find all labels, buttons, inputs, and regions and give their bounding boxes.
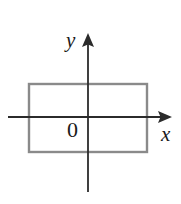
axes-and-rectangle-graphic — [0, 0, 181, 204]
x-axis-label: x — [161, 124, 170, 145]
y-axis-label: y — [66, 30, 75, 51]
origin-label: 0 — [67, 119, 78, 141]
coordinate-plane-figure: y x 0 — [0, 0, 181, 204]
